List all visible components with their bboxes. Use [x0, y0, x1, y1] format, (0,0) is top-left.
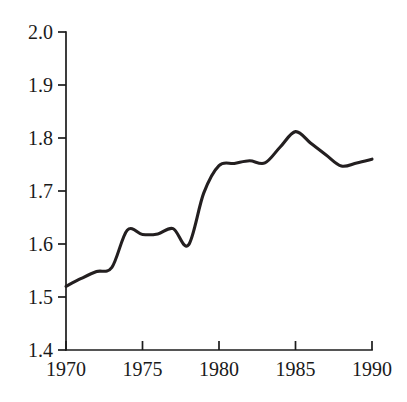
x-tick-label-1990: 1990 — [352, 358, 392, 380]
x-tick-label-1980: 1980 — [199, 358, 239, 380]
y-tick-label-1-9: 1.9 — [28, 74, 53, 96]
y-tick-label-1-7: 1.7 — [28, 180, 53, 202]
y-tick-label-1-5: 1.5 — [28, 286, 53, 308]
x-axis-ticks — [66, 341, 372, 350]
y-axis-tick-labels: 2.0 1.9 1.8 1.7 1.6 1.5 1.4 — [28, 21, 53, 361]
x-tick-label-1985: 1985 — [276, 358, 316, 380]
x-axis-tick-labels: 1970 1975 1980 1985 1990 — [46, 358, 392, 380]
line-chart: 2.0 1.9 1.8 1.7 1.6 1.5 1.4 1970 1975 19… — [0, 0, 407, 402]
data-line-series-1 — [66, 132, 372, 287]
y-tick-label-2-0: 2.0 — [28, 21, 53, 43]
y-tick-label-1-8: 1.8 — [28, 127, 53, 149]
y-axis-ticks — [58, 32, 66, 350]
chart-canvas: 2.0 1.9 1.8 1.7 1.6 1.5 1.4 1970 1975 19… — [0, 0, 407, 402]
x-tick-label-1975: 1975 — [123, 358, 163, 380]
y-tick-label-1-6: 1.6 — [28, 233, 53, 255]
x-tick-label-1970: 1970 — [46, 358, 86, 380]
